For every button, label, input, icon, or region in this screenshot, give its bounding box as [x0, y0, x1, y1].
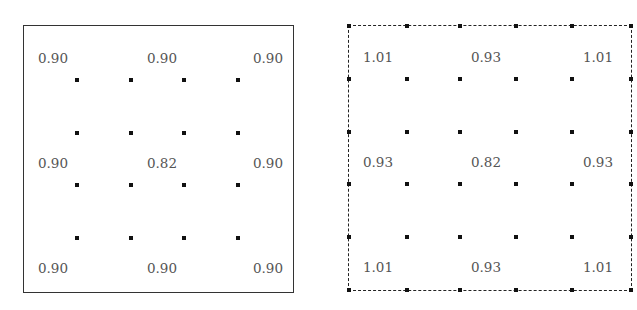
grid-point [182, 78, 186, 82]
boundary-point [514, 24, 518, 28]
right-label-r0c2: 1.01 [583, 49, 613, 65]
grid-point [514, 235, 518, 239]
grid-point [75, 78, 79, 82]
grid-point [570, 235, 574, 239]
grid-point [182, 236, 186, 240]
boundary-point [347, 182, 351, 186]
boundary-point [347, 130, 351, 134]
grid-point [514, 130, 518, 134]
boundary-point [629, 77, 633, 81]
boundary-point [629, 235, 633, 239]
boundary-point [405, 288, 409, 292]
left-label-r0c0: 0.90 [38, 50, 68, 66]
grid-point [570, 130, 574, 134]
right-label-r1c2: 0.93 [583, 154, 613, 170]
boundary-point [629, 24, 633, 28]
grid-point [458, 182, 462, 186]
boundary-point [570, 288, 574, 292]
grid-point [129, 131, 133, 135]
boundary-point [458, 288, 462, 292]
boundary-point [347, 77, 351, 81]
grid-point [129, 236, 133, 240]
boundary-point [347, 24, 351, 28]
grid-point [75, 236, 79, 240]
boundary-point [347, 288, 351, 292]
right-label-r1c0: 0.93 [363, 154, 393, 170]
grid-point [236, 236, 240, 240]
right-label-r2c1: 0.93 [471, 259, 501, 275]
left-label-r1c2: 0.90 [253, 155, 283, 171]
boundary-point [570, 24, 574, 28]
left-label-r2c1: 0.90 [147, 260, 177, 276]
grid-point [514, 182, 518, 186]
grid-point [405, 77, 409, 81]
grid-point [182, 183, 186, 187]
right-label-r0c1: 0.93 [471, 49, 501, 65]
boundary-point [514, 288, 518, 292]
right-label-r2c0: 1.01 [363, 259, 393, 275]
boundary-point [629, 182, 633, 186]
left-label-r0c2: 0.90 [253, 50, 283, 66]
boundary-point [405, 24, 409, 28]
grid-point [570, 182, 574, 186]
grid-point [236, 183, 240, 187]
grid-point [405, 130, 409, 134]
right-label-r2c2: 1.01 [583, 259, 613, 275]
boundary-point [347, 235, 351, 239]
right-label-r1c1: 0.82 [471, 154, 501, 170]
right-label-r0c0: 1.01 [363, 49, 393, 65]
left-label-r0c1: 0.90 [147, 50, 177, 66]
grid-point [514, 77, 518, 81]
left-label-r1c1: 0.82 [147, 155, 177, 171]
grid-point [458, 77, 462, 81]
left-label-r2c0: 0.90 [38, 260, 68, 276]
boundary-point [629, 130, 633, 134]
left-label-r1c0: 0.90 [38, 155, 68, 171]
grid-point [129, 183, 133, 187]
boundary-point [629, 288, 633, 292]
grid-point [570, 77, 574, 81]
grid-point [405, 235, 409, 239]
grid-point [458, 130, 462, 134]
boundary-point [458, 24, 462, 28]
left-label-r2c2: 0.90 [253, 260, 283, 276]
grid-point [405, 182, 409, 186]
grid-point [458, 235, 462, 239]
grid-point [75, 183, 79, 187]
grid-point [182, 131, 186, 135]
grid-point [75, 131, 79, 135]
grid-point [129, 78, 133, 82]
grid-point [236, 78, 240, 82]
grid-point [236, 131, 240, 135]
